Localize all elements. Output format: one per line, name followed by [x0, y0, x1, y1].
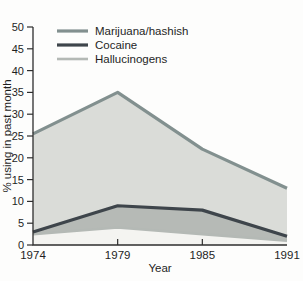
- y-tick-label: 15: [12, 174, 24, 186]
- x-tick-labels: 1974197919851991: [20, 249, 300, 261]
- x-axis-title: Year: [148, 262, 171, 274]
- y-tick-label: 10: [12, 195, 24, 207]
- y-tick-label: 20: [12, 152, 24, 164]
- y-tick-label: 5: [18, 217, 24, 229]
- legend-label-hallucinogens: Hallucinogens: [95, 53, 167, 65]
- y-tick-labels: 05101520253035404550: [12, 21, 24, 251]
- x-tick-label: 1974: [20, 249, 46, 261]
- legend-label-marijuana-hashish: Marijuana/hashish: [95, 25, 188, 37]
- y-tick-label: 40: [12, 65, 24, 77]
- x-tick-label: 1979: [105, 249, 131, 261]
- y-axis-title: % using in past month: [1, 79, 13, 192]
- y-tick-label: 30: [12, 108, 24, 120]
- legend-label-cocaine: Cocaine: [95, 39, 137, 51]
- y-tick-label: 25: [12, 130, 24, 142]
- x-tick-label: 1991: [274, 249, 300, 261]
- drug-use-trend-chart: 05101520253035404550 1974197919851991 % …: [0, 0, 303, 281]
- x-tick-label: 1985: [190, 249, 216, 261]
- legend: Marijuana/hashish Cocaine Hallucinogens: [57, 25, 188, 65]
- chart-canvas: 05101520253035404550 1974197919851991 % …: [0, 0, 303, 281]
- y-tick-label: 50: [12, 21, 24, 33]
- y-tick-label: 45: [12, 43, 24, 55]
- y-axis-ticks: [27, 27, 33, 245]
- y-tick-label: 35: [12, 86, 24, 98]
